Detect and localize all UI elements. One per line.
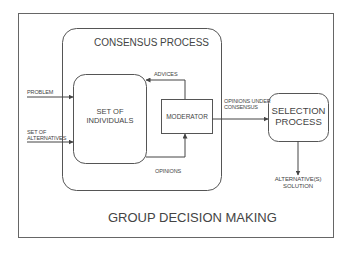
opinions-label: OPINIONS bbox=[155, 168, 181, 174]
group-decision-title: GROUP DECISION MAKING bbox=[108, 211, 277, 225]
selection-label-2: PROCESS bbox=[268, 117, 329, 127]
moderator-label: MODERATOR bbox=[161, 113, 213, 120]
solution-label-1: ALTERNATIVE(S) bbox=[270, 176, 326, 183]
solution-label-2: SOLUTION bbox=[270, 183, 326, 190]
consensus-process-title: CONSENSUS PROCESS bbox=[94, 37, 209, 48]
opinions-arrow bbox=[146, 134, 185, 157]
alternatives-label-2: ALTERNATIVES bbox=[27, 135, 66, 141]
selection-label-1: SELECTION bbox=[268, 106, 329, 116]
individuals-label-2: INDIVIDUALS bbox=[73, 117, 147, 125]
opinions-under-consensus-label-2: CONSENSUS bbox=[224, 104, 258, 110]
advices-arrow bbox=[146, 80, 185, 99]
advices-label: ADVICES bbox=[154, 71, 177, 77]
individuals-label-1: SET OF bbox=[73, 108, 147, 116]
problem-label: PROBLEM bbox=[27, 89, 53, 95]
